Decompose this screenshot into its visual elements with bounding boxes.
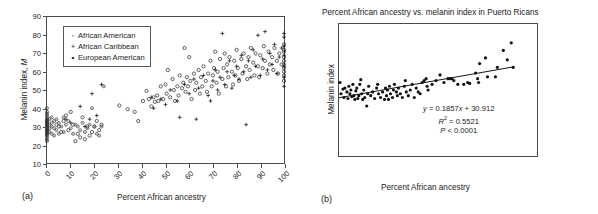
panel-a-tag: (a) bbox=[22, 191, 33, 201]
x-tick-label: 80 bbox=[216, 169, 244, 197]
legend-item-african-caribbean: + African Caribbean bbox=[68, 41, 145, 52]
regression-equation: y = 0.1857x + 30.912 bbox=[423, 104, 494, 114]
legend-label: African American bbox=[78, 31, 135, 40]
y-tick-mark bbox=[43, 90, 47, 91]
legend-item-african-american: ◦ African American bbox=[68, 30, 145, 41]
panel-b-x-axis-title: Percent African ancestry bbox=[381, 183, 470, 192]
panel-b-scatter-layer bbox=[339, 24, 537, 156]
panel-a-legend: ◦ African American + African Caribbean ⚬… bbox=[63, 26, 151, 67]
x-tick-mark bbox=[261, 164, 262, 168]
x-tick-mark bbox=[237, 164, 238, 168]
x-tick-mark bbox=[70, 164, 71, 168]
x-tick-mark bbox=[166, 164, 167, 168]
x-tick-mark bbox=[46, 164, 47, 168]
x-tick-label: 100 bbox=[264, 169, 292, 197]
panel-b-title: Percent African ancestry vs. melanin ind… bbox=[322, 8, 539, 17]
y-tick-mark bbox=[43, 127, 47, 128]
x-tick-mark bbox=[285, 164, 286, 168]
p-value: P < 0.0001 bbox=[423, 126, 494, 136]
r-squared-value: R2 = 0.5521 bbox=[423, 114, 494, 126]
y-tick-mark bbox=[43, 53, 47, 54]
y-tick-label: 10 bbox=[10, 160, 41, 169]
open-circle-icon: ◦ bbox=[68, 32, 78, 39]
x-tick-mark bbox=[213, 164, 214, 168]
panel-a: ◦ African American + African Caribbean ⚬… bbox=[0, 0, 299, 214]
dotted-circle-icon: ⚬ bbox=[68, 54, 78, 61]
x-tick-mark bbox=[189, 164, 190, 168]
y-tick-mark bbox=[43, 35, 47, 36]
y-tick-label: 90 bbox=[10, 12, 41, 21]
legend-item-european-american: ⚬ European American bbox=[68, 52, 145, 63]
y-tick-label: 20 bbox=[10, 141, 41, 150]
x-tick-label: 20 bbox=[73, 169, 101, 197]
legend-label: African Caribbean bbox=[78, 42, 139, 51]
plus-icon: + bbox=[68, 43, 78, 50]
y-tick-mark bbox=[43, 16, 47, 17]
legend-label: European American bbox=[78, 53, 145, 62]
panel-a-x-axis-title: Percent African ancestry bbox=[117, 193, 206, 202]
x-tick-label: 90 bbox=[240, 169, 268, 197]
y-tick-mark bbox=[43, 72, 47, 73]
x-tick-mark bbox=[94, 164, 95, 168]
panel-b-plot-area: y = 0.1857x + 30.912 R2 = 0.5521 P < 0.0… bbox=[338, 23, 538, 157]
y-tick-mark bbox=[43, 146, 47, 147]
panel-b-regression-annotation: y = 0.1857x + 30.912 R2 = 0.5521 P < 0.0… bbox=[423, 104, 494, 135]
y-tick-label: 80 bbox=[10, 30, 41, 39]
y-tick-mark bbox=[43, 109, 47, 110]
x-tick-mark bbox=[142, 164, 143, 168]
panel-b-tag: (b) bbox=[321, 194, 332, 204]
panel-b-y-axis-title: Melanin index bbox=[327, 40, 336, 140]
panel-b: Percent African ancestry vs. melanin ind… bbox=[299, 0, 598, 214]
figure-container: ◦ African American + African Caribbean ⚬… bbox=[0, 0, 598, 214]
panel-a-y-axis-title: Melanin index, M bbox=[20, 40, 29, 140]
panel-a-plot-area: ◦ African American + African Caribbean ⚬… bbox=[46, 16, 285, 164]
x-tick-mark bbox=[118, 164, 119, 168]
x-tick-label: 10 bbox=[49, 169, 77, 197]
